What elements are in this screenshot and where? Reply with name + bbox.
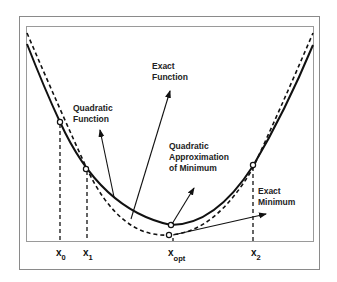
exact-minimum-arrow bbox=[173, 214, 266, 235]
x1-point bbox=[83, 166, 88, 171]
quadratic-approx-label: Quadratic Approximation of Minimum bbox=[169, 141, 231, 173]
exact-minimum-label: Exact Minimum bbox=[258, 186, 296, 207]
x2-label: x2 bbox=[251, 247, 261, 262]
exact-function-arrow bbox=[131, 91, 170, 219]
x0-point bbox=[57, 119, 62, 124]
quadratic-approx-arrow bbox=[172, 188, 194, 224]
exact-min-point bbox=[166, 232, 171, 237]
diagram-canvas: Exact Function Quadratic Function Quadra… bbox=[0, 0, 337, 282]
x1-label: x1 bbox=[83, 247, 93, 262]
exact-function-label: Exact Function bbox=[152, 61, 188, 82]
x0-label: x0 bbox=[56, 247, 66, 262]
quadratic-function-label: Quadratic Function bbox=[73, 103, 115, 124]
x2-point bbox=[250, 162, 255, 167]
xopt-label: xopt bbox=[168, 247, 186, 263]
